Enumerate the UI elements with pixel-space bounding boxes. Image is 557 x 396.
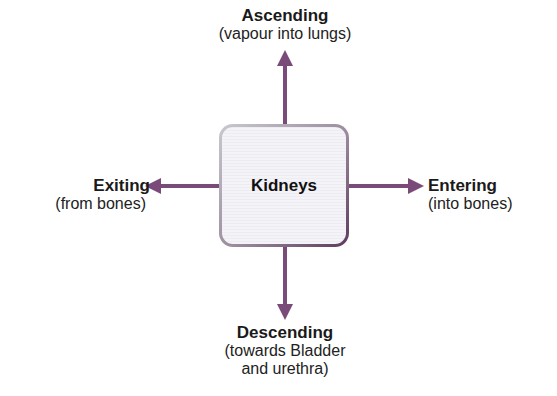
entering-sub: (into bones) [428, 195, 553, 213]
descending-sub-line1: (towards Bladder [185, 342, 385, 360]
ascending-title: Ascending [185, 6, 385, 25]
entering-label: Entering (into bones) [428, 176, 553, 213]
ascending-sub: (vapour into lungs) [185, 25, 385, 43]
arrowhead-right-icon [408, 178, 424, 194]
arrowhead-down-icon [277, 304, 293, 320]
exiting-label: Exiting (from bones) [40, 176, 150, 213]
kidneys-box: Kidneys [219, 124, 349, 247]
descending-sub-line2: and urethra) [185, 360, 385, 378]
descending-label: Descending (towards Bladder and urethra) [185, 323, 385, 378]
ascending-label: Ascending (vapour into lungs) [185, 6, 385, 43]
kidneys-box-inner: Kidneys [222, 127, 346, 244]
entering-title: Entering [428, 176, 553, 195]
arrowhead-up-icon [277, 50, 293, 66]
exiting-sub: (from bones) [36, 195, 146, 213]
exiting-title: Exiting [40, 176, 150, 195]
kidneys-label: Kidneys [251, 176, 317, 196]
descending-title: Descending [185, 323, 385, 342]
